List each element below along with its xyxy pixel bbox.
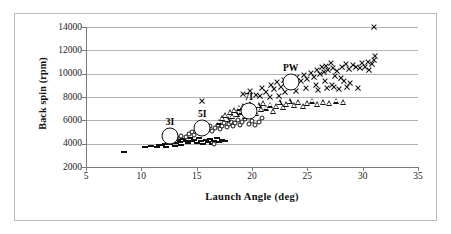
x-axis-tick-label: 10 <box>126 172 156 182</box>
data-point-PW <box>355 84 362 91</box>
y-axis-tick-label: 2000 <box>36 163 82 173</box>
y-axis-tick-label: 12000 <box>36 46 82 56</box>
x-axis-tick-label: 25 <box>292 172 322 182</box>
data-point-PW <box>324 84 331 91</box>
x-axis-tick-label: 35 <box>403 172 433 182</box>
data-point-PW <box>266 94 273 101</box>
data-point-5I <box>259 116 264 121</box>
data-point-3I <box>178 144 184 146</box>
plot-area: 3I5I7IPW <box>86 27 418 167</box>
y-axis-tick-label: 6000 <box>36 116 82 126</box>
x-axis-tick-label: 30 <box>348 172 378 182</box>
chart-page: Back spin (rpm) 140001200010000800060004… <box>0 0 451 234</box>
data-point-PW <box>275 92 282 99</box>
data-point-3I <box>194 142 200 144</box>
data-point-3I <box>185 142 191 144</box>
y-axis-tick-label: 4000 <box>36 139 82 149</box>
data-point-3I <box>172 145 178 147</box>
x-axis-tick-label: 20 <box>237 172 267 182</box>
data-point-7I <box>340 99 346 105</box>
series-label-PW: PW <box>283 63 298 73</box>
series-label-7I: 7I <box>244 92 252 102</box>
y-axis-tick-label: 8000 <box>36 93 82 103</box>
x-axis-title: Launch Angle (deg) <box>86 191 418 202</box>
data-point-PW <box>199 97 206 104</box>
data-point-3I <box>163 146 169 148</box>
data-point-PW <box>256 92 263 99</box>
y-axis-tick-labels: 1400012000100008000600040002000 <box>36 27 82 167</box>
data-point-7I <box>320 99 326 105</box>
data-point-3I <box>222 140 228 142</box>
data-point-PW <box>357 65 364 72</box>
data-point-PW <box>370 24 377 31</box>
data-point-7I <box>267 102 273 108</box>
series-centroid-marker-PW <box>282 74 299 91</box>
series-centroid-marker-7I <box>240 103 257 120</box>
gridline <box>86 27 418 28</box>
data-point-PW <box>303 85 310 92</box>
data-point-PW <box>337 75 344 82</box>
x-axis-tick-labels: 5101520253035 <box>86 172 426 186</box>
data-point-PW <box>315 87 322 94</box>
y-axis-tick-label: 14000 <box>36 23 82 33</box>
y-axis-line <box>86 27 87 168</box>
data-point-3I <box>142 146 148 148</box>
data-point-PW <box>366 67 373 74</box>
data-point-PW <box>371 53 378 60</box>
data-point-PW <box>330 83 337 90</box>
series-label-3I: 3I <box>166 117 174 127</box>
gridline <box>86 50 418 51</box>
data-point-3I <box>200 143 206 145</box>
gridline <box>86 74 418 75</box>
x-axis-line <box>86 167 419 168</box>
series-label-5I: 5I <box>198 109 206 119</box>
data-point-3I <box>154 146 160 148</box>
x-axis-tick-label: 15 <box>182 172 212 182</box>
gridline <box>86 144 418 145</box>
data-point-7I <box>326 100 332 106</box>
data-point-5I <box>212 141 217 146</box>
y-axis-tick-label: 10000 <box>36 69 82 79</box>
data-point-7I <box>333 98 339 104</box>
x-axis-tick-label: 5 <box>71 172 101 182</box>
series-centroid-marker-3I <box>162 128 179 145</box>
series-centroid-marker-5I <box>194 119 211 136</box>
data-point-3I <box>121 151 127 153</box>
data-point-PW <box>344 83 351 90</box>
